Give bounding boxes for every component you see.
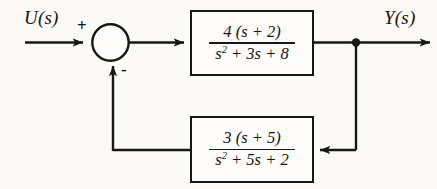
- forward-transfer-function: 4 (s + 2) s2 + 3s + 8: [209, 23, 295, 64]
- feedback-path-block: 3 (s + 5) s2 + 5s + 2: [190, 116, 314, 183]
- summing-junction: [92, 24, 128, 60]
- forward-path-block: 4 (s + 2) s2 + 3s + 8: [190, 10, 314, 76]
- input-signal-label: U(s): [24, 8, 59, 27]
- forward-numerator: 4 (s + 2): [219, 23, 284, 42]
- output-signal-label: Y(s): [384, 8, 415, 27]
- forward-denominator: s2 + 3s + 8: [211, 44, 292, 63]
- block-diagram: U(s) Y(s) + - 4 (s + 2) s2 + 3s + 8 3 (s…: [0, 0, 437, 189]
- feedback-transfer-function: 3 (s + 5) s2 + 5s + 2: [209, 129, 295, 170]
- forward-denominator-rest: + 3s + 8: [227, 44, 289, 63]
- feedback-denominator-rest: + 5s + 2: [227, 150, 289, 169]
- feedback-numerator: 3 (s + 5): [219, 129, 284, 148]
- feedback-denominator: s2 + 5s + 2: [211, 150, 292, 169]
- takeoff-node: [352, 38, 360, 46]
- summing-plus-sign: +: [77, 17, 87, 34]
- summing-minus-sign: -: [121, 61, 127, 78]
